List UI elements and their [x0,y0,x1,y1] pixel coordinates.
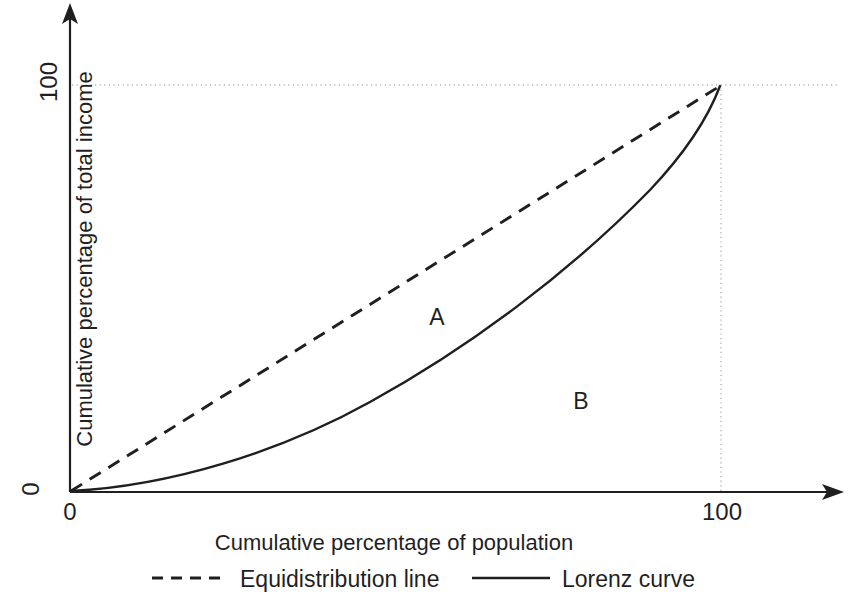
region-label-a: A [424,306,450,329]
legend-item-equidistribution-line: Equidistribution line [240,568,439,591]
x-axis-title: Cumulative percentage of population [154,532,634,554]
y-axis-tick-0: 0 [19,459,43,519]
y-axis-title: Cumulative percentage of total income [74,59,96,459]
x-axis-tick-0: 0 [54,500,86,524]
lorenz-curve-figure: Cumulative percentage of total income 10… [0,0,848,600]
legend-item-lorenz-curve: Lorenz curve [562,568,695,591]
equidistribution-line [71,86,720,491]
region-label-b: B [568,390,594,413]
x-axis-tick-100: 100 [687,500,757,524]
y-axis-tick-100: 100 [37,42,61,122]
